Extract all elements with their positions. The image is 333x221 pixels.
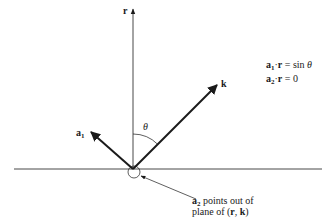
k-vector-label: k [221, 79, 227, 89]
r-vector-label: r [123, 6, 127, 16]
annotation-line-2: plane of (r, k) [192, 206, 254, 217]
eq1-rest: = sin [282, 59, 307, 70]
theta-angle-arc [133, 134, 158, 144]
a1-vector-label: a1 [76, 128, 85, 138]
annotation-pointer-arrow [141, 176, 196, 199]
equation-a2-dot-r: a2·r = 0 [266, 74, 298, 84]
annotation-line-1: a2 points out of [192, 195, 254, 206]
equation-a1-dot-r: a1·r = sin θ [266, 60, 312, 70]
eq1-theta: θ [307, 59, 312, 70]
a1-vector-arrow [91, 132, 133, 169]
eq2-rest: = 0 [282, 73, 298, 84]
diagram-canvas [0, 0, 333, 221]
ann-line1-rest: points out of [201, 195, 254, 206]
ann-suffix: ) [245, 206, 248, 217]
ann-line2-prefix: plane of ( [192, 206, 230, 217]
a2-annotation: a2 points out of plane of (r, k) [192, 195, 254, 217]
a1-sub: 1 [81, 132, 85, 140]
theta-label: θ [143, 122, 148, 132]
